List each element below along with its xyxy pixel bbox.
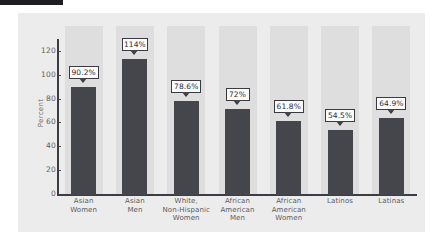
callout-pointer-icon xyxy=(336,121,344,126)
plot-area: Percent 020406080100120 90.2%114%78.6%72… xyxy=(18,13,425,232)
callout-pointer-icon xyxy=(79,78,87,83)
callout-pointer-icon xyxy=(233,100,241,105)
callout-pointer-icon xyxy=(284,112,292,117)
x-axis-category-labels: AsianWomenAsianMenWhite,Non-HispanicWome… xyxy=(58,197,417,232)
bar-series: 90.2%114%78.6%72%61.8%54.5%64.9% xyxy=(58,26,417,195)
bar xyxy=(379,118,404,195)
y-axis-tick-label: 60 xyxy=(28,117,56,126)
y-axis-tick-label: 40 xyxy=(28,141,56,150)
bar xyxy=(225,109,250,195)
y-axis-tick-label: 20 xyxy=(28,165,56,174)
y-axis-tick-label: 0 xyxy=(28,189,56,198)
callout-pointer-icon xyxy=(130,50,138,55)
bar xyxy=(71,87,96,195)
y-axis-tick-labels: 020406080100120 xyxy=(20,13,56,232)
bar xyxy=(174,101,199,195)
x-axis-category-label: Latinas xyxy=(361,197,422,206)
corner-accent-bar xyxy=(0,0,63,5)
bar xyxy=(122,59,147,195)
y-axis-tick-label: 120 xyxy=(28,46,56,55)
bar xyxy=(276,121,301,195)
y-axis-tick-label: 80 xyxy=(28,94,56,103)
y-axis-tick-label: 100 xyxy=(28,70,56,79)
bar xyxy=(328,130,353,195)
bar-chart-panel: Percent 020406080100120 90.2%114%78.6%72… xyxy=(18,13,425,232)
callout-pointer-icon xyxy=(387,109,395,114)
callout-pointer-icon xyxy=(182,92,190,97)
